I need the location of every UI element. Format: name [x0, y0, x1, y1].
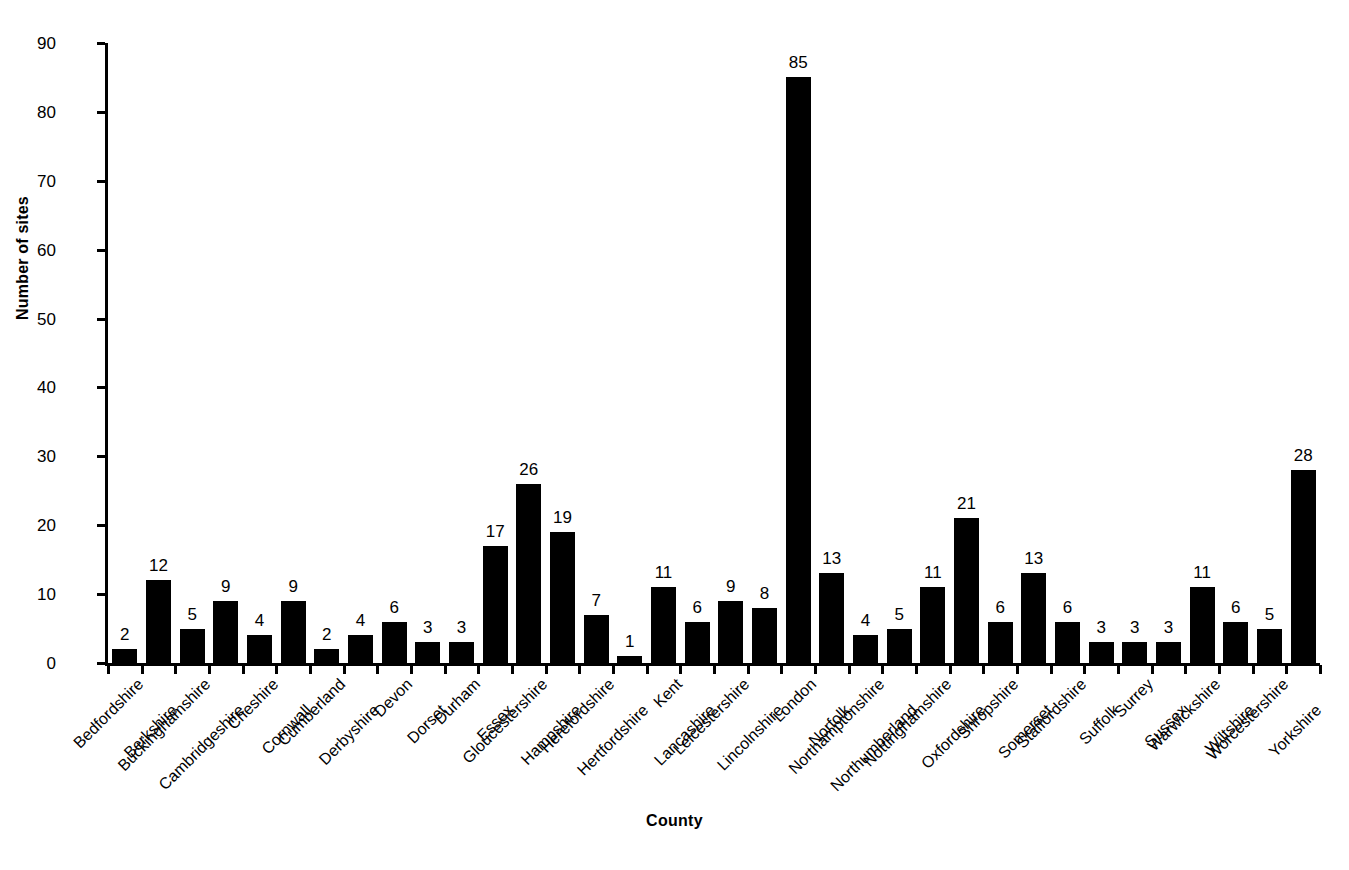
bar-value-label: 19	[533, 509, 593, 526]
bar	[1257, 629, 1282, 663]
bar-value-label: 12	[129, 557, 189, 574]
y-axis-tick	[97, 249, 105, 252]
x-axis-tick	[1319, 665, 1322, 674]
bar-value-label: 6	[364, 599, 424, 616]
x-axis-tick	[1016, 665, 1019, 674]
y-axis-tick-label: 40	[16, 379, 56, 396]
bar	[415, 642, 440, 663]
x-axis-tick	[410, 665, 413, 674]
bar-chart: Number of sites 0102030405060708090 2125…	[0, 0, 1349, 870]
bar	[617, 656, 642, 663]
x-axis-tick	[1218, 665, 1221, 674]
x-axis-tick	[982, 665, 985, 674]
bar	[449, 642, 474, 663]
y-axis-title: Number of sites	[14, 120, 32, 320]
x-axis-tick	[747, 665, 750, 674]
x-axis-tick	[915, 665, 918, 674]
bar	[1021, 573, 1046, 663]
x-axis-tick	[848, 665, 851, 674]
bar	[180, 629, 205, 663]
bar	[314, 649, 339, 663]
y-axis-tick-label: 10	[16, 586, 56, 603]
y-axis-tick-label: 30	[16, 448, 56, 465]
x-axis-tick	[444, 665, 447, 674]
x-axis-tick	[1117, 665, 1120, 674]
bar	[1089, 642, 1114, 663]
bar-value-label: 11	[634, 564, 694, 581]
bar-value-label: 6	[1038, 599, 1098, 616]
x-axis-tick	[511, 665, 514, 674]
y-axis-tick	[97, 386, 105, 389]
bar	[247, 635, 272, 663]
x-axis-tick	[881, 665, 884, 674]
bar-value-label: 13	[1004, 550, 1064, 567]
x-axis-tick	[1050, 665, 1053, 674]
x-axis-tick	[814, 665, 817, 674]
bar	[1156, 642, 1181, 663]
y-axis-tick-label: 70	[16, 173, 56, 190]
bar-value-label: 11	[1172, 564, 1232, 581]
x-axis-tick	[545, 665, 548, 674]
y-axis-tick-label: 20	[16, 517, 56, 534]
bar	[954, 518, 979, 663]
y-axis-tick	[97, 455, 105, 458]
bar-value-label: 9	[196, 578, 256, 595]
bar-value-label: 13	[802, 550, 862, 567]
y-axis-tick	[97, 593, 105, 596]
x-axis-tick	[1252, 665, 1255, 674]
x-axis-tick	[1151, 665, 1154, 674]
x-axis-tick	[1285, 665, 1288, 674]
bar-value-label: 9	[263, 578, 323, 595]
bar	[887, 629, 912, 663]
bar	[348, 635, 373, 663]
bar	[483, 546, 508, 663]
x-axis-tick	[1184, 665, 1187, 674]
x-axis-tick	[275, 665, 278, 674]
x-axis-tick	[646, 665, 649, 674]
bar-value-label: 7	[566, 592, 626, 609]
x-axis-tick	[309, 665, 312, 674]
bar	[920, 587, 945, 663]
bar	[685, 622, 710, 663]
bar	[752, 608, 777, 663]
x-axis-tick	[141, 665, 144, 674]
x-axis-tick	[242, 665, 245, 674]
bar	[112, 649, 137, 663]
bar	[786, 77, 811, 663]
bar	[213, 601, 238, 663]
y-axis-tick-label: 0	[16, 655, 56, 672]
plot-area: 0102030405060708090 21259492463317261971…	[108, 43, 1320, 663]
x-axis-tick	[343, 665, 346, 674]
y-axis-tick	[97, 111, 105, 114]
y-axis-line	[105, 43, 108, 666]
x-axis-tick	[376, 665, 379, 674]
y-axis-tick-label: 80	[16, 104, 56, 121]
bar-value-label: 26	[499, 461, 559, 478]
bar	[718, 601, 743, 663]
y-axis-tick	[97, 524, 105, 527]
bar	[853, 635, 878, 663]
x-axis-title: County	[0, 812, 1349, 830]
bar-value-label: 28	[1273, 447, 1333, 464]
bar-value-label: 21	[937, 495, 997, 512]
x-axis-tick	[477, 665, 480, 674]
x-axis-tick	[949, 665, 952, 674]
y-axis-tick-label: 60	[16, 242, 56, 259]
x-axis-tick	[208, 665, 211, 674]
x-axis-tick	[679, 665, 682, 674]
x-axis-tick	[1083, 665, 1086, 674]
y-axis-tick	[97, 42, 105, 45]
x-axis-tick	[174, 665, 177, 674]
y-axis-tick-label: 50	[16, 311, 56, 328]
bar	[988, 622, 1013, 663]
bar	[1122, 642, 1147, 663]
x-axis-tick	[578, 665, 581, 674]
y-axis-tick-label: 90	[16, 35, 56, 52]
bar	[1291, 470, 1316, 663]
x-axis-tick	[780, 665, 783, 674]
x-axis-tick	[713, 665, 716, 674]
bar	[1223, 622, 1248, 663]
bar-value-label: 85	[768, 54, 828, 71]
y-axis-tick	[97, 662, 105, 665]
y-axis-tick	[97, 180, 105, 183]
